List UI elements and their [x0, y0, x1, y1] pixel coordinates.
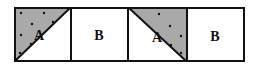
tile-label: B [94, 28, 103, 43]
tile-label: A [152, 30, 163, 45]
tile-diagram: A B A B [0, 0, 258, 70]
tile-b-1: B [94, 28, 103, 43]
tile-label: A [34, 28, 45, 43]
tile-b-2: B [210, 29, 219, 44]
tile-label: B [210, 29, 219, 44]
tile-a-2: A [129, 8, 186, 61]
tile-a-1: A [15, 8, 70, 61]
